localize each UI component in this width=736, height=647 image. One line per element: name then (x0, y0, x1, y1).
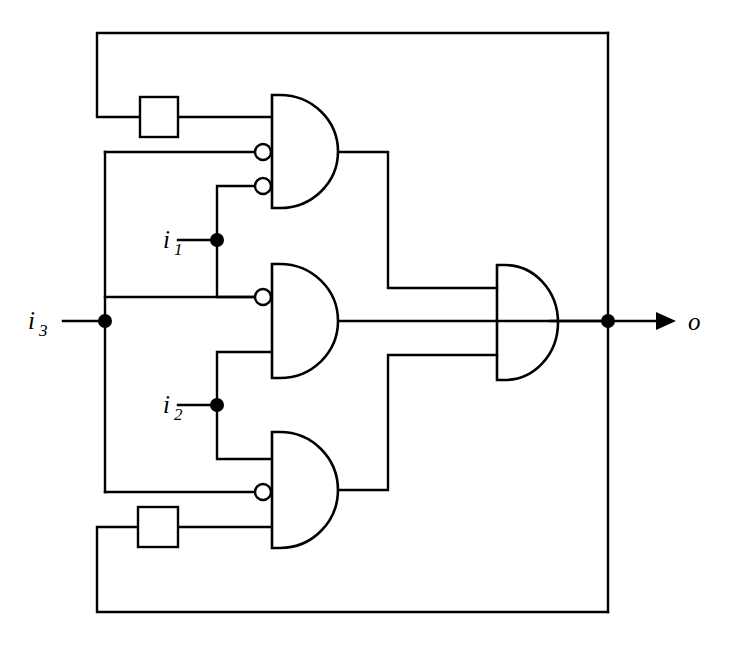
wire-and-bottom-out (330, 355, 497, 490)
output-label-o: o (688, 308, 701, 335)
input-label-i3-base: i (28, 307, 35, 334)
labels-layer: i 1 i 2 i 3 o (28, 226, 701, 424)
wire-i1-branch-down (217, 240, 262, 297)
input-label-i3: i 3 (28, 307, 48, 340)
gate-or-output[interactable] (497, 265, 558, 380)
inverter-bubble-icon (255, 289, 271, 305)
input-label-i2-base: i (163, 391, 170, 418)
gate-and-middle[interactable] (255, 264, 338, 378)
inverter-bubble-icon (255, 144, 271, 160)
and-gate-body (272, 95, 338, 208)
input-label-i2-subscript: 2 (174, 405, 183, 424)
output-arrow-icon (656, 312, 676, 330)
junction-dot-i3 (98, 314, 112, 328)
input-label-i3-subscript: 3 (38, 321, 48, 340)
wire-i2-branch-down (217, 405, 272, 459)
diagram-canvas: Sequential logic circuit with three AND … (0, 0, 736, 647)
inverter-bubble-icon (255, 484, 271, 500)
gate-and-bottom[interactable] (255, 432, 338, 548)
gate-and-top[interactable] (255, 95, 338, 208)
logic-circuit-svg: Sequential logic circuit with three AND … (0, 0, 736, 647)
and-gate-body (272, 264, 338, 378)
junction-dot-output (601, 314, 615, 328)
wire-i1-branch-up (217, 186, 262, 240)
junctions-layer (98, 233, 615, 412)
input-label-i1-base: i (163, 226, 170, 253)
input-label-i2: i 2 (163, 391, 183, 424)
arrow-layer (656, 312, 676, 330)
input-label-i1-subscript: 1 (174, 240, 183, 259)
wire-i2-branch-up (217, 352, 272, 405)
delay-element-bottom[interactable] (138, 507, 178, 547)
delays-layer (138, 97, 178, 547)
delay-element-top[interactable] (140, 97, 178, 137)
output-label-o-base: o (688, 308, 701, 335)
wire-and-top-out (330, 152, 497, 288)
junction-dot-i2 (210, 398, 224, 412)
junction-dot-i1 (210, 233, 224, 247)
input-label-i1: i 1 (163, 226, 183, 259)
and-gate-body (272, 432, 338, 548)
or-gate-body (497, 265, 558, 380)
inverter-bubble-icon (255, 178, 271, 194)
